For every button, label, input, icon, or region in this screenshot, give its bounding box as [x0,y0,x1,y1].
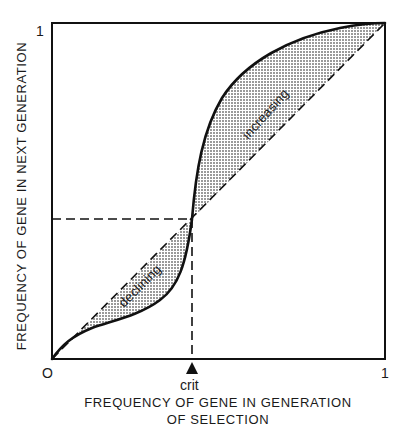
origin-label: O [42,365,53,381]
crit-arrow-icon [186,362,198,374]
y-axis-one-label: 1 [36,23,44,39]
x-axis-title-line1: FREQUENCY OF GENE IN GENERATION [84,395,351,410]
x-axis-one-label: 1 [381,365,389,381]
x-axis-title-line2: OF SELECTION [167,412,270,427]
crit-label: crit [180,377,199,393]
gene-frequency-diagram: declining increasing O 1 1 crit FREQUENC… [0,0,402,430]
y-axis-title: FREQUENCY OF GENE IN NEXT GENERATION [14,42,29,350]
